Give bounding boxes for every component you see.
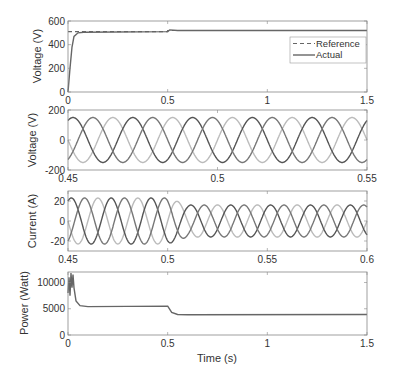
- plot-frame: [68, 191, 367, 251]
- x-tick-label: 0.6: [360, 254, 374, 265]
- y-tick-label: 200: [48, 63, 65, 74]
- panel-ac-voltage: 0.450.50.55-2000200 Voltage (V): [26, 105, 377, 185]
- x-tick-label: 0: [65, 95, 71, 106]
- y-tick-label: 400: [48, 39, 65, 50]
- x-tick-label: 0.5: [161, 338, 175, 349]
- y-tick-label: 20: [54, 196, 66, 207]
- x-tick-label: 0.5: [161, 254, 175, 265]
- y-axis-label: Voltage (V): [26, 113, 38, 167]
- y-tick-label: 600: [48, 16, 65, 27]
- panel-power: 00.511.50500010000 Power (Watt) Time (s): [18, 271, 374, 364]
- legend-label-actual: Actual: [316, 49, 342, 60]
- legend: Reference Actual: [290, 37, 366, 63]
- y-tick-label: -200: [45, 165, 65, 176]
- figure: 00.511.50200400600 Voltage (V) Reference…: [0, 0, 396, 382]
- legend-label-reference: Reference: [316, 38, 360, 49]
- x-tick-label: 1.5: [360, 95, 374, 106]
- y-tick-label: 10000: [37, 277, 65, 288]
- x-tick-label: 0.5: [211, 173, 225, 184]
- x-tick-label: 0: [65, 338, 71, 349]
- x-axis-label: Time (s): [197, 352, 237, 364]
- x-tick-label: 1: [265, 95, 271, 106]
- x-tick-label: 0.55: [357, 173, 377, 184]
- x-tick-label: 0.45: [58, 254, 78, 265]
- y-tick-label: 0: [59, 216, 65, 227]
- power-line: [68, 273, 367, 315]
- panel-ac-current: 0.450.50.550.6-20020 Current (A): [26, 191, 374, 265]
- y-axis-label: Current (A): [26, 194, 38, 248]
- x-tick-label: 0.55: [258, 254, 278, 265]
- phase-line: [68, 118, 367, 163]
- y-axis-label: Voltage (V): [31, 29, 43, 83]
- x-tick-label: 1: [265, 338, 271, 349]
- y-tick-label: 200: [48, 105, 65, 116]
- plot-frame: [68, 272, 367, 335]
- y-tick-label: 5000: [43, 303, 66, 314]
- y-tick-label: -20: [51, 236, 66, 247]
- y-tick-label: 0: [59, 87, 65, 98]
- y-tick-label: 0: [59, 330, 65, 341]
- panel-dc-voltage: 00.511.50200400600 Voltage (V) Reference…: [31, 16, 374, 107]
- x-tick-label: 1.5: [360, 338, 374, 349]
- y-tick-label: 0: [59, 135, 65, 146]
- x-tick-label: 0.5: [161, 95, 175, 106]
- y-axis-label: Power (Watt): [18, 271, 30, 335]
